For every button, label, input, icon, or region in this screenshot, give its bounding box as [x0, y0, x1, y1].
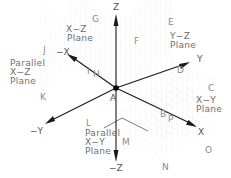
xy-plane-label: X−Y Plane [196, 96, 222, 114]
xz-plane-label: X−Z Plane [66, 25, 93, 43]
point-m-label: M [122, 138, 130, 147]
parallel-xz-plane-label: Parallel X−Z Plane [10, 59, 45, 86]
yz-plane-label: Y−Z Plane [170, 32, 196, 50]
neg-y-arrowhead [45, 116, 55, 124]
point-d-label: D [177, 66, 184, 75]
point-j-label: J [43, 46, 46, 55]
neg-y-axis-label: −Y [30, 127, 43, 136]
point-i-label: I [87, 67, 90, 76]
point-b-label: B [160, 110, 166, 119]
point-n-label: N [162, 163, 169, 172]
point-l-label: L [86, 119, 91, 128]
point-o-label: O [205, 146, 212, 155]
neg-x-axis-label: −X [56, 48, 70, 57]
y-axis-label: Y [197, 55, 203, 64]
point-k-label: K [40, 93, 46, 102]
origin-label: A [110, 94, 116, 103]
z-axis-label: Z [113, 3, 119, 12]
point-h-label: H [93, 70, 100, 79]
parallel-xy-plane-label: Parallel X−Y Plane [85, 129, 120, 156]
point-c-label: C [208, 84, 214, 93]
point-e-label: E [168, 18, 174, 27]
point-p-label: P [168, 115, 173, 124]
point-g-label: G [92, 15, 99, 24]
point-f-label: F [134, 37, 139, 46]
x-axis-label: X [198, 128, 204, 137]
origin-point [113, 85, 119, 91]
neg-z-axis-label: −Z [109, 164, 123, 173]
